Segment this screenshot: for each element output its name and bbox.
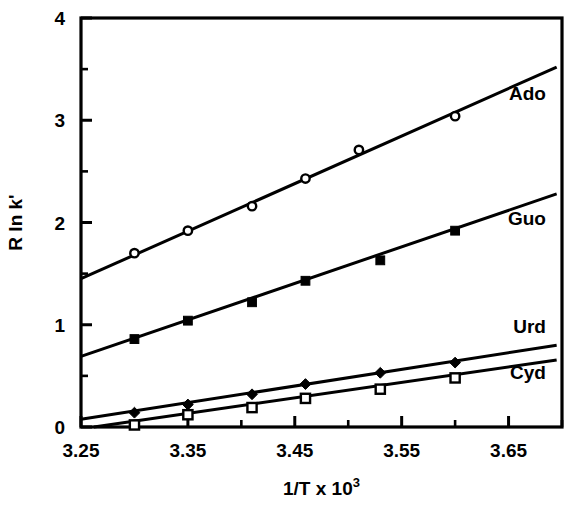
plot-border: [81, 18, 562, 427]
data-point-ado: [355, 146, 363, 154]
data-point-urd: [300, 379, 311, 390]
data-point-urd: [450, 357, 461, 368]
data-point-guo: [183, 316, 192, 325]
x-axis-tick-labels: 3.253.353.453.553.65: [63, 440, 528, 461]
axis-ticks: [81, 18, 562, 427]
data-point-guo: [451, 226, 460, 235]
data-point-guo: [248, 298, 257, 307]
fit-line-urd: [81, 345, 557, 419]
data-point-guo: [130, 335, 139, 344]
y-tick-label: 3: [54, 110, 65, 131]
y-tick-label: 0: [54, 417, 65, 438]
series-label-guo: Guo: [508, 208, 546, 229]
series-label-ado: Ado: [509, 83, 546, 104]
chart-canvas: 3.253.353.453.553.65 01234 AdoGuoUrdCyd …: [0, 0, 574, 522]
y-axis-tick-labels: 01234: [54, 8, 65, 438]
x-tick-label: 3.65: [490, 440, 527, 461]
x-tick-label: 3.45: [276, 440, 313, 461]
fit-line-cyd: [94, 360, 557, 427]
y-tick-label: 4: [54, 8, 65, 29]
series-label-urd: Urd: [513, 316, 546, 337]
plot-frame: [81, 18, 562, 427]
series-fit-lines: [81, 67, 557, 427]
data-point-ado: [301, 174, 309, 182]
data-point-guo: [376, 256, 385, 265]
y-tick-label: 1: [54, 315, 65, 336]
data-point-cyd: [451, 373, 460, 382]
y-axis-title: R ln k': [5, 194, 26, 250]
data-point-cyd: [130, 420, 139, 429]
data-point-ado: [248, 202, 256, 210]
fit-line-guo: [81, 194, 557, 357]
x-axis-title: 1/T x 103: [283, 475, 360, 499]
vant-hoff-plot-figure: 3.253.353.453.553.65 01234 AdoGuoUrdCyd …: [0, 0, 574, 522]
series-labels: AdoGuoUrdCyd: [508, 83, 546, 383]
x-tick-label: 3.25: [63, 440, 100, 461]
y-tick-label: 2: [54, 213, 65, 234]
fit-line-ado: [81, 67, 557, 279]
data-point-cyd: [247, 403, 256, 412]
data-point-cyd: [376, 385, 385, 394]
data-point-ado: [130, 249, 138, 257]
x-tick-label: 3.35: [169, 440, 206, 461]
series-label-cyd: Cyd: [510, 362, 546, 383]
data-point-urd: [247, 389, 258, 400]
data-point-ado: [184, 226, 192, 234]
data-point-cyd: [183, 410, 192, 419]
data-point-cyd: [301, 394, 310, 403]
data-point-urd: [375, 367, 386, 378]
x-tick-label: 3.55: [383, 440, 420, 461]
data-point-ado: [451, 112, 459, 120]
data-point-guo: [301, 276, 310, 285]
